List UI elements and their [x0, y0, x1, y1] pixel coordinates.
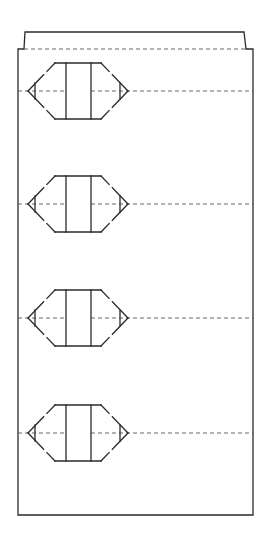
hexagon-lower-left-diagonal: [47, 338, 55, 346]
hexagon-lower-left-diagonal: [28, 204, 44, 220]
connector-symbol-1: [18, 63, 253, 119]
panel-border: [18, 32, 253, 515]
hexagon-lower-left-diagonal: [47, 453, 55, 461]
hexagon-upper-left-diagonal: [28, 417, 44, 433]
hexagon-upper-left-diagonal: [47, 290, 55, 298]
hexagon-upper-right-diagonal: [101, 176, 109, 184]
panel-outline: [18, 32, 253, 515]
symbols: [18, 63, 253, 461]
connector-symbol-4: [18, 405, 253, 461]
hexagon-lower-left-diagonal: [28, 91, 44, 107]
diagram-canvas: [0, 0, 272, 539]
hexagon-lower-left-diagonal: [28, 433, 44, 449]
hexagon-lower-left-diagonal: [28, 318, 44, 334]
hexagon-upper-left-diagonal: [47, 405, 55, 413]
hexagon-upper-left-diagonal: [47, 63, 55, 71]
hexagon-lower-right-diagonal: [101, 224, 109, 232]
hexagon-lower-right-diagonal: [101, 111, 109, 119]
connector-symbol-2: [18, 176, 253, 232]
hexagon-upper-left-diagonal: [47, 176, 55, 184]
hexagon-upper-right-diagonal: [101, 63, 109, 71]
hexagon-upper-right-diagonal: [101, 405, 109, 413]
hexagon-upper-left-diagonal: [28, 302, 44, 318]
hexagon-upper-right-diagonal: [101, 290, 109, 298]
hexagon-upper-left-diagonal: [28, 75, 44, 91]
hexagon-upper-left-diagonal: [28, 188, 44, 204]
connector-symbol-3: [18, 290, 253, 346]
hexagon-lower-left-diagonal: [47, 111, 55, 119]
technical-drawing: [0, 0, 272, 539]
hexagon-lower-left-diagonal: [47, 224, 55, 232]
hexagon-lower-right-diagonal: [101, 453, 109, 461]
hexagon-lower-right-diagonal: [101, 338, 109, 346]
